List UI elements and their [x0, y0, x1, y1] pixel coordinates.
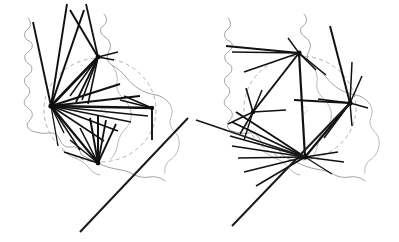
right-flow-hub-west-17: [246, 88, 253, 112]
right-flow-hub-east-8: [330, 26, 350, 103]
left-hub-north: [96, 55, 101, 60]
right-flow-hub-north-4: [299, 53, 305, 157]
left-flow-hub-north-16: [86, 4, 98, 57]
right-hub-north: [296, 50, 301, 55]
left-flow-hub-north-15: [70, 10, 98, 57]
right-hub-west: [251, 110, 255, 114]
right-flow-hub-north-3: [253, 53, 299, 112]
left-flow-hub-south-25: [98, 120, 106, 163]
right-flow-hub-east-9: [350, 62, 352, 103]
left-flow-lines: [33, 4, 152, 163]
right-flow-hub-west-19: [253, 110, 286, 112]
right-flow-map: [224, 14, 379, 186]
left-hub-south: [96, 161, 101, 166]
left-hub-west: [48, 103, 53, 108]
right-flow-hub-north-1: [232, 52, 299, 53]
left-flow-hub-north-17: [98, 57, 114, 60]
left-flow-map: [24, 4, 179, 181]
right-flow-hub-north-7: [288, 38, 299, 53]
right-flow-hub-east-16: [350, 103, 368, 108]
right-flow-hub-east-15: [350, 103, 352, 126]
left-flow-hub-west-0: [33, 22, 51, 106]
flow-map-canvas: [0, 0, 399, 242]
long-diagonal-c-2: [196, 120, 305, 157]
right-flow-hub-south-27: [238, 157, 305, 158]
right-flow-hub-south-29: [256, 157, 305, 186]
flow-map-figure: [0, 0, 399, 242]
right-flow-hub-north-6: [299, 53, 326, 75]
left-hub-east: [150, 106, 154, 110]
left-flow-hub-south-26: [98, 124, 116, 163]
